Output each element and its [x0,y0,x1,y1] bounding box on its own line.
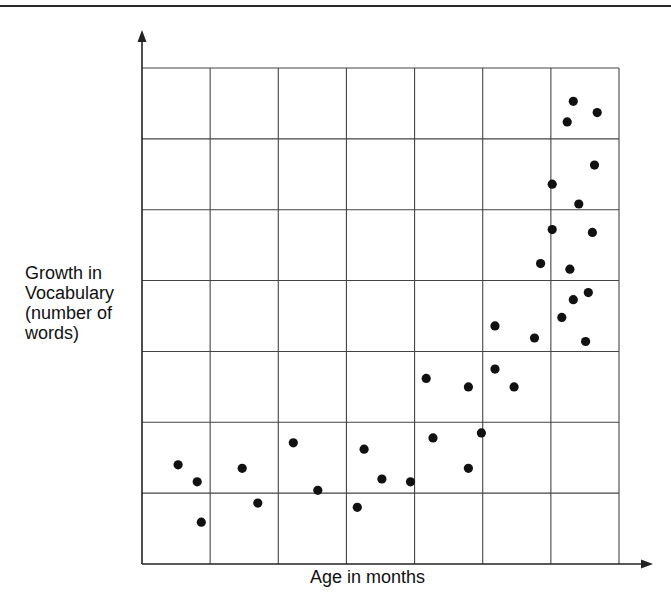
data-point [477,428,486,437]
data-point [464,382,473,391]
data-point [490,365,499,374]
data-point [253,499,262,508]
data-point [557,313,566,322]
data-points [174,97,602,527]
data-point [581,337,590,346]
y-axis-label: Growth in Vocabulary (number of words) [25,263,114,343]
data-point [536,259,545,268]
data-point [569,295,578,304]
x-axis-label: Age in months [310,566,425,588]
data-point [548,180,557,189]
data-point [360,445,369,454]
data-point [464,464,473,473]
x-axis-arrow-icon [641,560,653,569]
data-point [565,265,574,274]
data-point [353,503,362,512]
data-point [313,486,322,495]
data-point [422,374,431,383]
data-point [174,460,183,469]
data-point [574,199,583,208]
data-point [490,321,499,330]
grid-lines [142,68,619,564]
data-point [563,117,572,126]
data-point [428,433,437,442]
data-point [406,477,415,486]
data-point [593,108,602,117]
data-point [590,161,599,170]
data-point [530,333,539,342]
data-point [509,382,518,391]
data-point [193,477,202,486]
data-point [588,228,597,237]
data-point [377,474,386,483]
data-point [197,518,206,527]
data-point [584,288,593,297]
data-point [548,225,557,234]
data-point [569,97,578,106]
data-point [289,438,298,447]
y-axis-arrow-icon [138,30,147,42]
data-point [238,464,247,473]
